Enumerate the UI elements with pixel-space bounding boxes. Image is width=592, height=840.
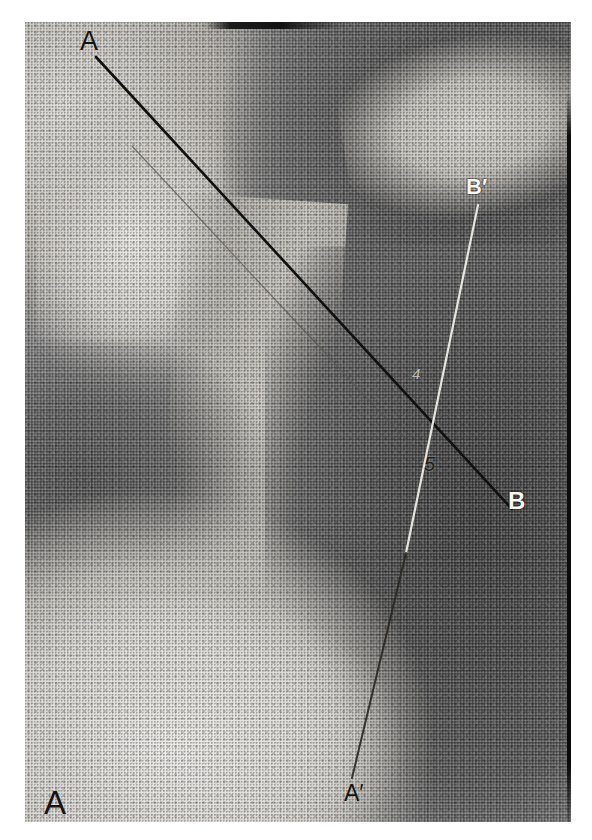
region-vertebral-column (150, 193, 348, 699)
label-B-prime: B′ (466, 176, 487, 198)
region-lower-left-highlight (25, 598, 440, 822)
region-mid-left-shadow (25, 342, 276, 630)
label-A: A (80, 28, 98, 55)
region-vignette (25, 22, 571, 822)
region-clavicle-band (330, 22, 571, 233)
film-grain-coarse (25, 22, 571, 822)
mark-5: 5 (424, 454, 435, 474)
radiograph-figure: A A′ B′ B A 4 5 (0, 0, 592, 840)
mark-4: 4 (412, 366, 420, 381)
region-lower-left-lucency (25, 486, 429, 822)
region-lower-right-shadow (265, 246, 571, 822)
radiograph-plate (25, 22, 571, 822)
panel-label: A (44, 786, 66, 819)
region-upper-right-shadow (222, 22, 571, 374)
region-upper-left-bone (25, 22, 396, 342)
label-A-prime: A′ (344, 782, 364, 805)
region-upper-left-highlight (36, 86, 287, 422)
top-edge-artifact (205, 22, 345, 29)
label-B: B (508, 489, 525, 513)
film-grain-fine (25, 22, 571, 822)
right-edge-border (567, 92, 571, 822)
